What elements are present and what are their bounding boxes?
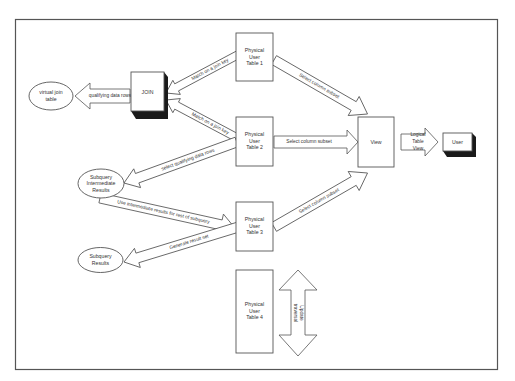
node-label-line: User	[249, 223, 260, 229]
node-join: JOIN	[131, 72, 168, 119]
node-view: View	[358, 117, 394, 167]
node-subquery-results: Subquery Results	[78, 248, 123, 273]
arrow-label-line: Update	[299, 305, 304, 321]
arrow-label-line: traversal	[293, 304, 298, 322]
arrow-label: Select column subset	[286, 139, 332, 144]
node-label-line: User	[249, 54, 260, 60]
arrow-label-line: View	[413, 146, 424, 151]
node-label-line: Table 1	[246, 60, 263, 66]
node-label-line: Physical	[245, 301, 264, 307]
node-label-line: Intermediate	[87, 180, 116, 186]
node-label-line: Table 4	[246, 314, 263, 320]
node-label-line: Results	[92, 260, 110, 266]
node-label-line: Physical	[245, 47, 264, 53]
node-physical-user-table-4: Physical User Table 4	[236, 270, 273, 353]
node-label-line: Physical	[245, 216, 264, 222]
node-label-line: User	[249, 308, 260, 314]
node-label: View	[370, 139, 381, 145]
arrow-label-line: Logical	[410, 132, 425, 137]
node-physical-user-table-2: Physical User Table 2	[236, 117, 273, 166]
node-label: JOIN	[142, 89, 154, 95]
arrow-label: qualifying data rows	[89, 93, 132, 98]
node-user: User	[443, 133, 476, 157]
node-label-line: Results	[92, 187, 110, 193]
node-physical-user-table-1: Physical User Table 1	[236, 33, 273, 81]
arrow-label-line: Table	[412, 139, 424, 144]
node-subquery-intermediate-results: Subquery Intermediate Results	[78, 169, 124, 198]
node-label: User	[452, 139, 463, 145]
node-physical-user-table-3: Physical User Table 3	[236, 202, 273, 251]
node-label-line: User	[249, 138, 260, 144]
node-label-line: Table 3	[246, 229, 263, 235]
node-label-line: table	[45, 96, 56, 102]
node-label-line: Physical	[245, 131, 264, 137]
node-label-line: Table 2	[246, 144, 263, 150]
diagram-canvas: qualifying data rows Match on a join key…	[0, 0, 515, 381]
node-label-line: Subquery	[89, 253, 112, 259]
node-virtual-join-table: virtual join table	[29, 82, 73, 110]
node-label-line: virtual join	[39, 89, 62, 95]
node-label-line: Subquery	[90, 174, 113, 180]
